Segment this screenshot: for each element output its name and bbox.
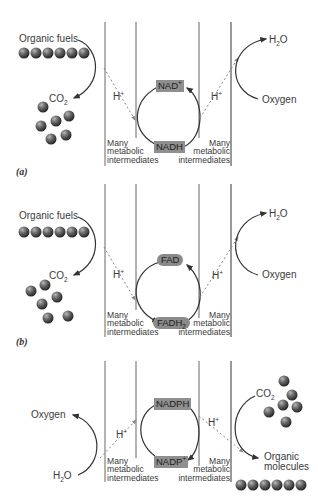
panel-b-letter: (b)	[16, 336, 28, 347]
h2o-label: H2O	[269, 35, 288, 45]
h-plus-right: H+	[211, 92, 222, 102]
panel-a-letter: (a)	[16, 166, 28, 177]
h-plus-right: H+	[208, 418, 219, 428]
intermediates-right: Manymetabolicintermediates	[176, 139, 230, 164]
co2-label: CO2	[49, 271, 68, 281]
diagram-graphics	[0, 0, 318, 497]
co2-label: CO2	[256, 389, 275, 399]
h-plus-left: H+	[113, 92, 124, 102]
organic-molecule-spheres	[236, 480, 307, 491]
intermediates-left: Manymetabolicintermediates	[107, 139, 159, 164]
nadph-box: NADPH	[154, 398, 191, 410]
intermediates-right: Manymetabolicintermediates	[176, 311, 230, 336]
organic-fuels-label: Organic fuels	[19, 34, 78, 44]
organic-fuel-spheres	[19, 48, 90, 59]
oxygen-label: Oxygen	[262, 95, 296, 105]
h-plus-right: H+	[212, 271, 223, 281]
intermediates-left: Manymetabolicintermediates	[107, 311, 159, 336]
co2-label: CO2	[49, 94, 68, 104]
oxygen-label: Oxygen	[31, 410, 65, 420]
organic-fuels-label: Organic fuels	[19, 211, 78, 221]
intermediates-left: Manymetabolicintermediates	[107, 457, 159, 482]
organic-molecules-label: Organicmolecules	[264, 452, 309, 472]
co2-spheres	[26, 280, 74, 324]
intermediates-right: Manymetabolicintermediates	[176, 457, 230, 482]
h-plus-left: H+	[116, 430, 127, 440]
co2-spheres	[36, 102, 75, 145]
organic-fuel-spheres	[19, 227, 90, 238]
h-plus-left: H+	[113, 270, 124, 280]
nad-plus-box: NAD+	[156, 80, 184, 92]
oxygen-label: Oxygen	[262, 270, 296, 280]
h2o-label: H2O	[53, 471, 72, 481]
h2o-label: H2O	[269, 209, 288, 219]
fad-pill: FAD	[157, 254, 183, 266]
co2-spheres	[264, 376, 303, 428]
